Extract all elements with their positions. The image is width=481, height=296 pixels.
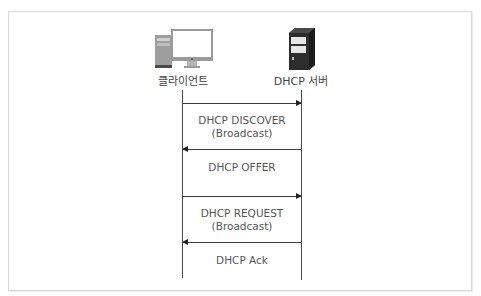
server-lifeline (301, 90, 302, 280)
request-label-line1: DHCP REQUEST (183, 207, 301, 220)
arrowhead-icon (296, 100, 302, 106)
server-tower-icon (285, 27, 317, 71)
request-label-line2: (Broadcast) (183, 220, 301, 233)
request-arrow (183, 196, 301, 197)
arrowhead-icon (182, 239, 188, 245)
ack-label-line1: DHCP Ack (183, 254, 301, 267)
discover-label-line2: (Broadcast) (183, 127, 301, 140)
arrowhead-icon (182, 146, 188, 152)
request-label: DHCP REQUEST (Broadcast) (183, 207, 301, 233)
discover-label-line1: DHCP DISCOVER (183, 114, 301, 127)
offer-label-line1: DHCP OFFER (183, 161, 301, 174)
discover-label: DHCP DISCOVER (Broadcast) (183, 114, 301, 140)
actor-label-client: 클라이언트 (148, 72, 218, 88)
ack-arrow (183, 242, 301, 243)
offer-arrow (183, 149, 301, 150)
arrowhead-icon (296, 193, 302, 199)
ack-label: DHCP Ack (183, 254, 301, 267)
desktop-computer-icon (154, 28, 214, 72)
actor-label-server: DHCP 서버 (266, 72, 336, 88)
diagram-frame (8, 11, 472, 291)
offer-label: DHCP OFFER (183, 161, 301, 174)
discover-arrow (183, 103, 301, 104)
